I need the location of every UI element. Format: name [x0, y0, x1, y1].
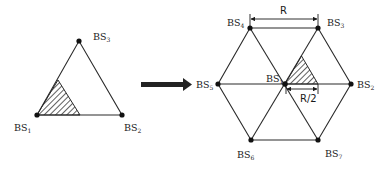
- node-bs6: [248, 137, 253, 142]
- dimension-r-half: R/2: [286, 84, 318, 104]
- node-bs1-left: [34, 112, 39, 117]
- dimension-r-label: R: [280, 5, 287, 16]
- dimension-r: R: [250, 5, 318, 26]
- hatched-region-left: [37, 80, 80, 115]
- node-bs2-left: [119, 112, 124, 117]
- label-bs1: BS1: [266, 73, 283, 85]
- node-bs4: [247, 25, 252, 30]
- node-bs3-left: [76, 38, 81, 43]
- node-bs5: [215, 81, 220, 86]
- label-bs7: BS7: [325, 148, 343, 160]
- node-bs7: [315, 137, 320, 142]
- label-bs1-left: BS1: [14, 122, 31, 134]
- label-bs2-left: BS2: [124, 122, 142, 134]
- node-bs3: [315, 25, 320, 30]
- label-bs4: BS4: [227, 17, 245, 29]
- hatched-region-right: [285, 56, 318, 84]
- dimension-r-half-label: R/2: [300, 93, 317, 104]
- right-arrow-icon: [141, 78, 192, 91]
- label-bs3: BS3: [327, 17, 345, 29]
- label-bs6: BS6: [237, 149, 255, 161]
- diagram-canvas: BS1 BS2 BS3 R R/2: [0, 0, 386, 170]
- node-bs2: [348, 81, 353, 86]
- label-bs3-left: BS3: [93, 31, 111, 43]
- label-bs2: BS2: [357, 79, 375, 91]
- label-bs5: BS5: [196, 79, 214, 91]
- hexagon-diagram: R R/2 BS1 BS2 BS3 BS4 BS5 BS6 BS7: [196, 5, 375, 161]
- left-triangle-diagram: BS1 BS2 BS3: [14, 31, 142, 134]
